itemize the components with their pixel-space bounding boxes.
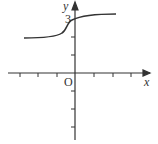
origin-label: O bbox=[64, 76, 73, 88]
x-label: x bbox=[144, 76, 149, 88]
graph bbox=[0, 0, 158, 144]
y-label: y bbox=[63, 0, 68, 12]
value-3-label: 3 bbox=[65, 13, 71, 25]
y-axis-arrow-icon bbox=[72, 2, 78, 10]
